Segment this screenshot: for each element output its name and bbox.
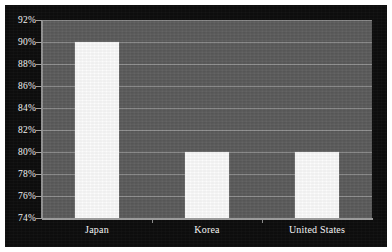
bar [185,152,229,218]
y-axis-label: 76% [6,191,36,201]
y-axis-label: 74% [6,213,36,223]
y-axis-label-wrapper: 84% [5,103,36,113]
y-axis-label-wrapper: 90% [5,37,36,47]
y-axis-label-wrapper: 76% [5,191,36,201]
y-axis-label-wrapper: 80% [5,147,36,157]
x-axis-tick [152,220,153,223]
y-axis-label-wrapper: 82% [5,125,36,135]
y-axis-label-wrapper: 78% [5,169,36,179]
x-axis-category-label: United States [257,224,377,236]
y-axis-label: 92% [6,15,36,25]
y-axis-label-wrapper: 88% [5,59,36,69]
bar [295,152,339,218]
y-axis-label-wrapper: 92% [5,15,36,25]
y-axis-label: 88% [6,59,36,69]
y-axis-label: 84% [6,103,36,113]
y-axis-label-wrapper: 86% [5,81,36,91]
x-axis-category-label: Korea [147,224,267,236]
chart-screenshot: 92%90%88%86%84%82%80%78%76%74% JapanKore… [0,0,392,252]
y-axis-label: 78% [6,169,36,179]
gridline [42,20,372,21]
x-axis-tick [262,220,263,223]
y-axis-label: 80% [6,147,36,157]
x-axis-line [42,218,373,220]
plot-area [42,20,372,218]
y-axis-tick [36,218,42,219]
y-axis-label: 90% [6,37,36,47]
chart-panel: 92%90%88%86%84%82%80%78%76%74% JapanKore… [5,5,387,247]
y-axis-label-wrapper: 74% [5,213,36,223]
bar [75,42,119,218]
y-axis-line [41,20,43,219]
y-axis-label: 82% [6,125,36,135]
x-axis-category-label: Japan [37,224,157,236]
y-axis-label: 86% [6,81,36,91]
